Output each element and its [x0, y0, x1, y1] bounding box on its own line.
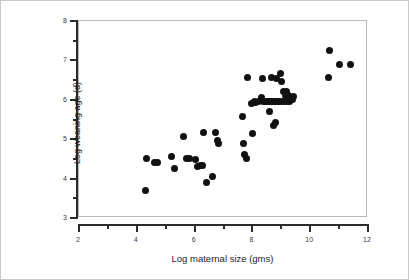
x-tick-minor [338, 224, 340, 229]
x-tick-label: 2 [76, 236, 80, 243]
x-axis-title: Log maternal size (gms) [78, 253, 367, 264]
data-point [143, 155, 150, 162]
y-tick-major [70, 20, 78, 22]
data-point [244, 74, 251, 81]
data-point [326, 47, 333, 54]
data-point [209, 173, 216, 180]
x-tick-major [194, 224, 196, 232]
y-tick-label: 7 [63, 56, 67, 63]
data-point [212, 129, 219, 136]
data-point [277, 70, 284, 77]
data-point [249, 130, 256, 137]
data-point [243, 155, 250, 162]
data-point [239, 113, 246, 120]
data-point [272, 119, 279, 126]
data-point [278, 78, 285, 85]
x-tick-label: 12 [363, 236, 371, 243]
y-tick-minor [73, 40, 78, 42]
data-point [240, 140, 247, 147]
scatter-points-layer [79, 21, 366, 216]
y-tick-label: 3 [63, 214, 67, 221]
data-point [290, 93, 297, 100]
x-tick-major [367, 224, 369, 232]
data-point [199, 162, 206, 169]
x-tick-major [136, 224, 138, 232]
data-point [142, 187, 149, 194]
y-tick-label: 8 [63, 17, 67, 24]
x-tick-label: 8 [249, 236, 253, 243]
figure-container: 345678 Log weaning age (d) 24681012 Log … [0, 0, 409, 280]
y-axis-title: Log weaning age (d) [72, 43, 82, 203]
data-point [168, 153, 175, 160]
x-tick-label: 10 [305, 236, 313, 243]
data-point [347, 61, 354, 68]
x-tick-major [78, 224, 80, 232]
data-point [259, 75, 266, 82]
data-point [325, 74, 332, 81]
x-tick-minor [107, 224, 109, 229]
y-tick-label: 6 [63, 95, 67, 102]
data-point [200, 129, 207, 136]
x-tick-label: 6 [192, 236, 196, 243]
data-point [171, 165, 178, 172]
data-point [336, 61, 343, 68]
data-point [180, 133, 187, 140]
y-tick-major [70, 217, 78, 219]
y-tick-label: 5 [63, 135, 67, 142]
data-point [215, 140, 222, 147]
x-tick-label: 4 [134, 236, 138, 243]
data-point [203, 179, 210, 186]
y-tick-label: 4 [63, 174, 67, 181]
data-point [154, 159, 161, 166]
x-axis: 24681012 [78, 224, 367, 232]
x-tick-minor [223, 224, 225, 229]
plot-area [78, 20, 367, 217]
data-point [266, 108, 273, 115]
x-tick-minor [280, 224, 282, 229]
x-tick-major [309, 224, 311, 232]
x-tick-minor [165, 224, 167, 229]
x-tick-major [251, 224, 253, 232]
